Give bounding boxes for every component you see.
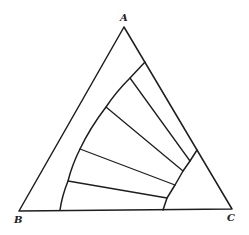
vertex-label-b: B <box>13 214 22 225</box>
left-boundary-curve <box>60 62 145 210</box>
tie-line <box>130 78 190 161</box>
triangle-outline <box>19 27 232 211</box>
tie-line <box>80 149 175 185</box>
vertex-label-a: A <box>119 12 128 23</box>
ternary-diagram: A B C <box>0 0 249 235</box>
tie-line <box>106 107 183 171</box>
vertex-label-c: C <box>227 212 235 223</box>
tie-line <box>68 181 167 198</box>
